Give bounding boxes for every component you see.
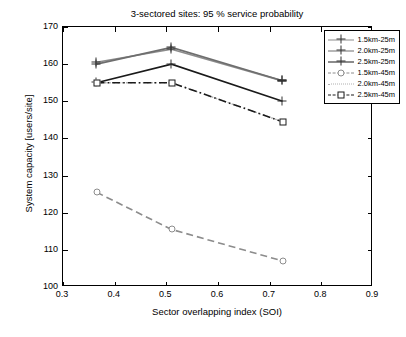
data-point-marker: [93, 79, 100, 86]
data-point-marker: [282, 101, 283, 102]
legend-marker: [338, 69, 345, 76]
x-tick-label: 0.7: [262, 289, 275, 299]
data-point-marker: [171, 64, 172, 65]
data-point-marker: [171, 47, 172, 48]
legend-swatch: [328, 78, 354, 89]
legend-item: 2.0km-25m: [328, 45, 395, 56]
data-point-marker: [168, 226, 175, 233]
legend-label: 2.5km-45m: [357, 91, 395, 99]
data-point-marker: [279, 118, 286, 125]
legend-swatch: [328, 89, 354, 100]
data-point-marker: [93, 189, 100, 196]
y-axis-label: System capacity [users/site]: [23, 64, 34, 244]
data-point-marker: [282, 80, 283, 81]
x-tick-label: 0.8: [314, 289, 327, 299]
legend-label: 2.5km-25m: [357, 58, 395, 66]
chart-legend: 1.5km-25m2.0km-25m2.5km-25m1.5km-45m2.0k…: [324, 30, 400, 104]
series-line: [97, 192, 283, 261]
x-tick-label: 0.5: [159, 289, 172, 299]
legend-label: 1.5km-25m: [357, 36, 395, 44]
y-tick-label: 100: [28, 281, 58, 291]
legend-swatch: [328, 45, 354, 56]
legend-item: 1.5km-25m: [328, 34, 395, 45]
legend-swatch: [328, 67, 354, 78]
x-axis-label: Sector overlapping index (SOI): [62, 306, 372, 317]
legend-marker: [341, 61, 342, 62]
data-point-marker: [279, 258, 286, 265]
legend-marker: [338, 91, 345, 98]
y-tick-label: 110: [28, 244, 58, 254]
legend-item: 2.0km-45m: [328, 78, 395, 89]
legend-label: 2.0km-25m: [357, 47, 395, 55]
chart-title: 3-sectored sites: 95 % service probabili…: [62, 8, 372, 19]
legend-label: 1.5km-45m: [357, 69, 395, 77]
legend-marker: [341, 39, 342, 40]
legend-item: 1.5km-45m: [328, 67, 395, 78]
chart-figure: 3-sectored sites: 95 % service probabili…: [0, 0, 406, 337]
legend-item: 2.5km-25m: [328, 56, 395, 67]
x-tick-label: 0.6: [211, 289, 224, 299]
x-tick-label: 0.4: [107, 289, 120, 299]
data-point-marker: [168, 79, 175, 86]
legend-swatch: [328, 34, 354, 45]
x-tick-label: 0.9: [366, 289, 379, 299]
data-point-marker: [96, 64, 97, 65]
legend-label: 2.0km-45m: [357, 80, 395, 88]
legend-item: 2.5km-45m: [328, 89, 395, 100]
series-line: [97, 83, 283, 122]
legend-line: [328, 83, 354, 84]
legend-swatch: [328, 56, 354, 67]
legend-marker: [341, 50, 342, 51]
y-tick-label: 170: [28, 21, 58, 31]
